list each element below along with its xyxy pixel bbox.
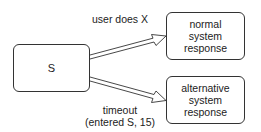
state-s-node: S — [13, 44, 90, 92]
edge-label-user-does-x: user does X — [88, 13, 152, 25]
edge-label-timeout: timeout (entered S, 15) — [80, 104, 160, 128]
normal-system-response-node: normal system response — [166, 12, 245, 60]
arrow-user-does-x — [90, 35, 166, 60]
state-s-label: S — [48, 62, 55, 74]
arrow-timeout — [90, 77, 166, 103]
alternative-system-response-node: alternative system response — [166, 76, 245, 124]
alternative-system-response-label: alternative system response — [181, 82, 229, 118]
state-diagram: S normal system response alternative sys… — [0, 0, 261, 132]
normal-system-response-label: normal system response — [184, 18, 227, 54]
